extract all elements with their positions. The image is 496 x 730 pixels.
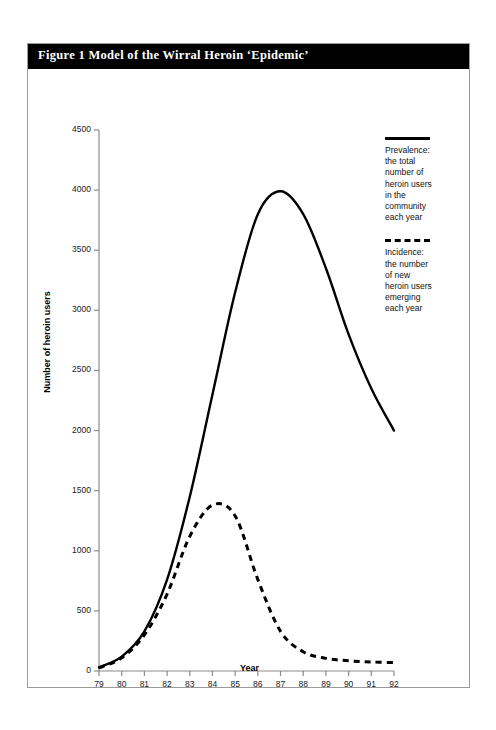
y-tick-label: 2000	[59, 425, 91, 435]
x-tick-label: 88	[293, 679, 313, 689]
x-tick-label: 81	[134, 679, 154, 689]
figure-container: Figure 1 Model of the Wirral Heroin ‘Epi…	[27, 43, 470, 688]
y-tick-label: 1000	[59, 545, 91, 555]
y-axis-title: Number of heroin users	[42, 257, 52, 427]
legend-entry-prevalence: Prevalence: the total number of heroin u…	[385, 137, 465, 223]
y-tick-label: 3000	[59, 304, 91, 314]
x-tick-label: 87	[271, 679, 291, 689]
legend-dashed-line-icon	[385, 239, 430, 242]
x-tick-label: 79	[89, 679, 109, 689]
x-tick-label: 92	[384, 679, 404, 689]
x-tick-label: 86	[248, 679, 268, 689]
figure-title-bar: Figure 1 Model of the Wirral Heroin ‘Epi…	[28, 44, 469, 69]
x-tick-label: 80	[112, 679, 132, 689]
y-tick-label: 4000	[59, 184, 91, 194]
series-line-incidence	[99, 504, 394, 668]
figure-caption: Figure 1 Model of the Wirral Heroin ‘Epi…	[38, 48, 309, 63]
y-tick-label: 500	[59, 605, 91, 615]
axis-lines	[99, 130, 394, 671]
y-tick-label: 2500	[59, 364, 91, 374]
x-tick-label: 91	[361, 679, 381, 689]
x-tick-label: 84	[202, 679, 222, 689]
legend-label-incidence: Incidence: the number of new heroin user…	[385, 247, 465, 314]
y-tick-label: 4500	[59, 124, 91, 134]
plot-area: 050010001500200025003000350040004500 798…	[28, 69, 471, 688]
series-line-prevalence	[99, 191, 394, 667]
x-tick-label: 90	[339, 679, 359, 689]
x-tick-label: 89	[316, 679, 336, 689]
legend-entry-incidence: Incidence: the number of new heroin user…	[385, 239, 465, 314]
legend-solid-line-icon	[385, 137, 430, 140]
x-tick-label: 85	[225, 679, 245, 689]
chart-legend: Prevalence: the total number of heroin u…	[385, 137, 465, 331]
y-axis-ticks	[94, 130, 99, 671]
x-axis-title: Year	[28, 663, 471, 673]
x-tick-label: 83	[180, 679, 200, 689]
y-tick-label: 3500	[59, 244, 91, 254]
legend-label-prevalence: Prevalence: the total number of heroin u…	[385, 145, 465, 223]
y-tick-label: 1500	[59, 485, 91, 495]
x-tick-label: 82	[157, 679, 177, 689]
